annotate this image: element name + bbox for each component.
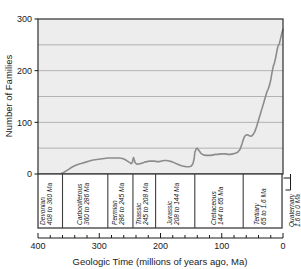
period-name: Permian [111, 200, 118, 225]
x-tick-label-100: 100 [214, 241, 229, 251]
period-label-quaternary: Quaternary1.6 to 0 Ma [288, 193, 301, 227]
y-tick-label-100: 100 [17, 118, 32, 128]
period-range: 144 to 65 Ma [217, 186, 224, 225]
period-name: Cretaceous [210, 191, 217, 225]
period-name: Devonian [39, 197, 46, 225]
x-tick-label-400: 400 [30, 241, 45, 251]
period-range: 286 to 245 Ma [118, 183, 125, 226]
period-name: Triassic [135, 202, 142, 225]
geologic-time-families-chart: 0100200300 Number of Families Devonian40… [0, 0, 301, 269]
period-range: 245 to 208 Ma [142, 183, 149, 226]
period-range: 208 to 144 Ma [173, 183, 180, 226]
period-range: 408 to 360 Ma [46, 183, 53, 225]
x-tick-label-300: 300 [92, 241, 107, 251]
period-range: 360 to 286 Ma [83, 183, 90, 225]
period-band-box [38, 174, 282, 228]
period-range: 1.6 to 0 Ma [294, 194, 301, 227]
x-axis-title: Geologic Time (millions of years ago, Ma… [73, 256, 248, 267]
y-tick-label-300: 300 [17, 14, 32, 24]
x-tick-label-200: 200 [153, 241, 168, 251]
x-tick-label-0: 0 [280, 241, 285, 251]
y-tick-label-0: 0 [27, 169, 32, 179]
period-name: Carboniferous [76, 183, 83, 225]
y-tick-label-200: 200 [17, 66, 32, 76]
period-label-cretaceous: Cretaceous144 to 65 Ma [210, 186, 224, 225]
period-range: 65 to 1.6 Ma [260, 188, 267, 225]
y-axis-title: Number of Families [3, 55, 14, 138]
period-label-carboniferous: Carboniferous360 to 286 Ma [76, 183, 90, 225]
period-name: Jurassic [166, 200, 173, 226]
